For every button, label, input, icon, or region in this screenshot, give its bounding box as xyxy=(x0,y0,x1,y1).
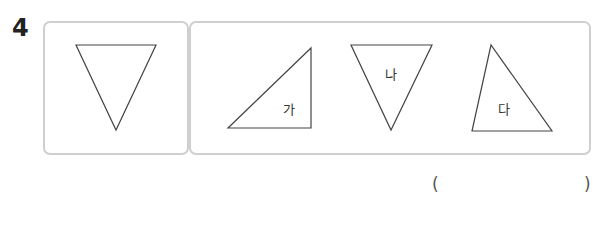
answer-field[interactable] xyxy=(445,172,580,194)
option-na-triangle[interactable] xyxy=(351,45,432,130)
option-da-triangle[interactable] xyxy=(472,45,552,131)
option-da-label: 다 xyxy=(498,99,510,118)
option-na-label: 나 xyxy=(385,64,397,83)
option-ga-triangle[interactable] xyxy=(228,48,311,128)
answer-open-paren: ( xyxy=(432,174,439,194)
reference-triangle xyxy=(76,45,156,130)
answer-close-paren: ) xyxy=(584,174,591,194)
option-ga-label: 가 xyxy=(283,99,295,118)
